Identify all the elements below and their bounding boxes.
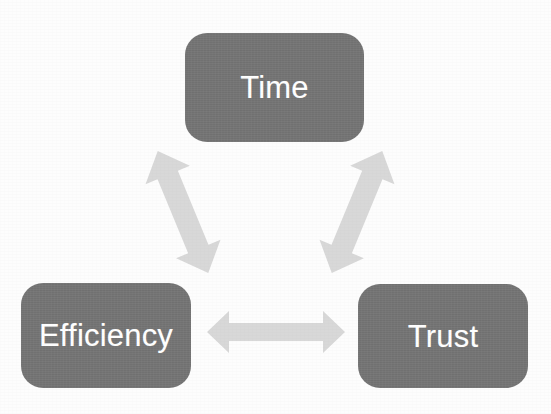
arrow-time-efficiency-shape <box>136 142 231 282</box>
arrow-time-trust <box>310 142 405 282</box>
node-time[interactable]: Time <box>185 33 364 142</box>
diagram-canvas: Efficiency : diagonal double-headed bloc… <box>0 0 551 414</box>
node-trust-label: Trust <box>408 321 478 352</box>
arrow-efficiency-trust <box>207 311 345 353</box>
arrow-time-trust-shape <box>310 142 405 282</box>
arrow-time-efficiency <box>136 142 231 282</box>
node-time-label: Time <box>240 72 309 103</box>
arrow-efficiency-trust-shape <box>207 311 345 353</box>
node-efficiency-label: Efficiency <box>39 320 173 351</box>
node-trust[interactable]: Trust <box>358 284 528 388</box>
node-efficiency[interactable]: Efficiency <box>21 283 191 388</box>
